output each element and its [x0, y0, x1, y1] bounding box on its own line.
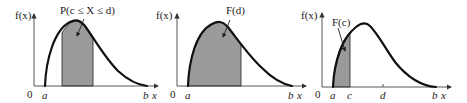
annotation-label: F(d): [226, 4, 245, 17]
y-axis-label: f(x): [156, 9, 173, 22]
x-tick-a: a: [42, 89, 48, 101]
annotation-label: P(c ≤ X ≤ d): [60, 4, 115, 17]
probability-density-diagram: f(x) P(c ≤ X ≤ d) 0 a b x f(x) F(d) 0 a …: [0, 0, 467, 103]
density-curve: [45, 20, 147, 86]
panel-cdf-at-d: f(x) F(d) 0 a b x: [156, 4, 306, 101]
shaded-area-a-to-d: [188, 22, 241, 86]
x-tick-b: b: [432, 89, 438, 101]
x-tick-b: b: [288, 89, 294, 101]
panel-probability-between: f(x) P(c ≤ X ≤ d) 0 a b x: [15, 4, 158, 101]
x-axis-label: x: [151, 89, 157, 101]
y-axis-label: f(x): [15, 9, 32, 22]
x-tick-a: a: [185, 89, 191, 101]
origin-label: 0: [27, 88, 33, 100]
x-tick-c: c: [347, 89, 352, 101]
x-axis-label: x: [440, 89, 446, 101]
annotation-label: F(c): [332, 16, 351, 29]
x-tick-d: d: [380, 89, 386, 101]
origin-label: 0: [170, 88, 176, 100]
x-axis-label: x: [296, 89, 302, 101]
y-axis-label: f(x): [301, 9, 318, 22]
origin-label: 0: [315, 88, 321, 100]
x-tick-b: b: [143, 89, 149, 101]
panel-cdf-at-c: f(x) F(c) 0 a c d b x: [301, 9, 451, 101]
x-tick-a: a: [330, 89, 336, 101]
